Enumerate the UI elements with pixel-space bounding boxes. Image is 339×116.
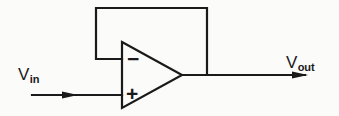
input-voltage-subscript: in [30, 73, 39, 85]
output-voltage-symbol: V [286, 53, 297, 72]
op-amp-circuit-diagram: Vin Vout − + [0, 0, 339, 116]
input-arrowhead-icon [62, 91, 78, 98]
inverting-input-minus-sign: − [127, 48, 139, 69]
output-voltage-subscript: out [298, 61, 315, 73]
feedback-wire [96, 8, 207, 75]
noninverting-input-plus-sign: + [126, 83, 138, 104]
input-voltage-symbol: V [18, 65, 29, 84]
input-voltage-label: Vin [18, 66, 39, 85]
output-voltage-label: Vout [286, 54, 314, 73]
